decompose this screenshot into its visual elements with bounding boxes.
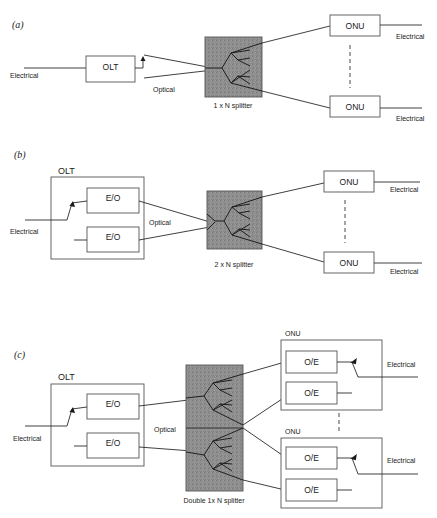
fiber-to-onu-top — [262, 183, 324, 197]
fiber-top — [144, 55, 213, 68]
olt-label: OLT — [103, 62, 119, 72]
eo-top-label: E/O — [106, 399, 121, 409]
onu-top-oe1-label: O/E — [304, 357, 319, 367]
onu-bottom-output-label: Electrical — [396, 115, 425, 122]
splitter-label: Double 1x N splitter — [183, 497, 245, 505]
fiber-bottom-to-onu1-oe2 — [243, 397, 285, 425]
fiber-to-onu-bottom — [262, 244, 324, 262]
eo-top-label: E/O — [106, 193, 121, 203]
panel-c-tag: (c) — [14, 349, 26, 361]
electrical-input-label: Electrical — [10, 228, 39, 235]
onu-top-title: ONU — [285, 330, 301, 337]
electrical-input-label: Electrical — [10, 72, 39, 79]
electrical-input-label: Electrical — [13, 435, 42, 442]
onu-top-output-label: Electrical — [396, 33, 425, 40]
onu-top-output-label: Electrical — [390, 186, 419, 193]
onu-bottom-output-label: Electrical — [387, 457, 416, 464]
fiber-bottom-to-onu2-oe2 — [243, 480, 285, 490]
fiber-bottom — [144, 70, 213, 78]
olt-title: OLT — [58, 372, 75, 382]
panel-b-tag: (b) — [14, 149, 26, 161]
eo-bottom-label: E/O — [106, 232, 121, 242]
onu-bottom-oe1-label: O/E — [304, 453, 319, 463]
fiber-to-onu-top — [262, 26, 330, 43]
splitter-label: 1 x N splitter — [214, 102, 254, 110]
onu-bottom-title: ONU — [285, 428, 301, 435]
splitter-label: 2 x N splitter — [215, 261, 255, 269]
onu-bottom-label: ONU — [340, 258, 359, 268]
optical-label: Optical — [149, 219, 171, 227]
onu-top-label: ONU — [346, 21, 365, 31]
optical-label: Optical — [154, 426, 176, 434]
optical-label: Optical — [153, 86, 175, 94]
fiber-top-to-onu1-oe1 — [243, 362, 285, 374]
panel-b: (b) OLT E/O E/O Electrical Optical — [10, 149, 422, 275]
onu-bottom-output-label: Electrical — [390, 268, 419, 275]
onu-bottom-oe2-label: O/E — [304, 485, 319, 495]
fiber-top-to-onu2-oe1 — [243, 428, 285, 457]
panel-c: (c) OLT E/O E/O Electrical Optical — [13, 330, 418, 508]
onu-top-label: ONU — [340, 177, 359, 187]
eo-bottom-label: E/O — [106, 438, 121, 448]
onu-bottom-label: ONU — [346, 102, 365, 112]
panel-a: (a) Electrical OLT Optical 1 x N splitte… — [10, 15, 425, 122]
fiber-bottom — [139, 227, 210, 240]
fiber-to-onu-bottom — [262, 91, 330, 108]
pon-architecture-diagram: (a) Electrical OLT Optical 1 x N splitte… — [0, 0, 437, 518]
olt-title: OLT — [58, 166, 75, 176]
onu-top-oe2-label: O/E — [304, 388, 319, 398]
switch-arrow-icon — [141, 56, 146, 61]
onu-top-output-label: Electrical — [387, 361, 416, 368]
panel-a-tag: (a) — [12, 19, 24, 31]
